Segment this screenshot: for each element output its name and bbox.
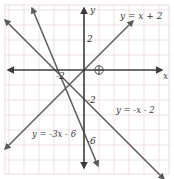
coordinate-graph-figure: y x 2 -2 -6 -2 y = x + 2 y = -x - 2 y = … — [0, 0, 174, 179]
figure-background — [0, 0, 174, 179]
y-tick-neg-6: -6 — [87, 136, 96, 146]
x-axis-label: x — [163, 71, 168, 81]
plot-svg: y x 2 -2 -6 -2 y = x + 2 y = -x - 2 y = … — [0, 0, 174, 179]
line-label-y-equals-neg-3x-minus-6: y = -3x - 6 — [31, 129, 77, 139]
x-tick-neg-2: -2 — [56, 71, 65, 81]
line-label-y-equals-neg-x-minus-2: y = -x - 2 — [115, 105, 155, 115]
y-axis-label: y — [89, 5, 96, 15]
line-label-y-equals-x-plus-2: y = x + 2 — [119, 11, 163, 21]
y-tick-neg-2: -2 — [87, 95, 96, 105]
y-tick-2: 2 — [86, 34, 93, 44]
